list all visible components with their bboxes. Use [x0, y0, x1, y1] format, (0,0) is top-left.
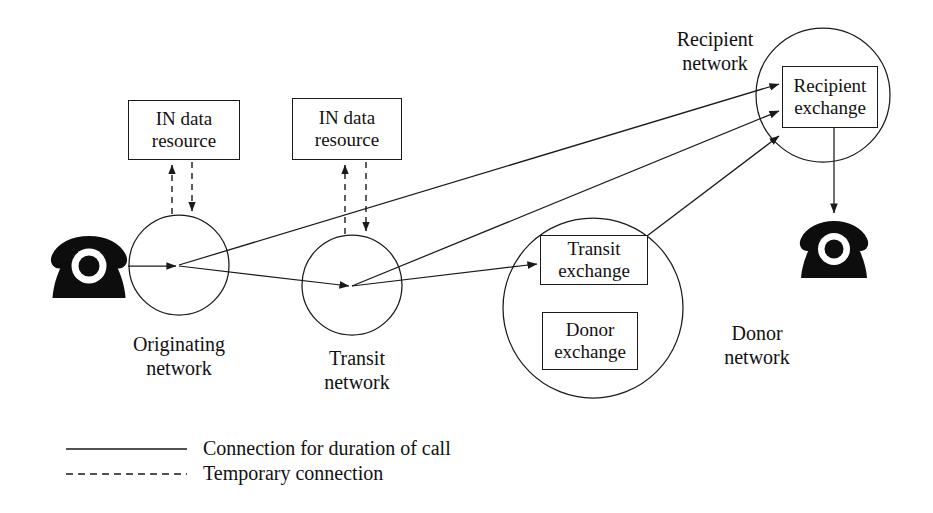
recipient-network-label: Recipient network: [645, 28, 785, 75]
in-data-resource-2-box[interactable]: IN data resource: [292, 98, 402, 160]
transit-exchange-label: Transit exchange: [558, 238, 630, 282]
transit-network-label: Transit network: [297, 347, 417, 394]
connection-originating-to-transit: [179, 266, 349, 286]
in-data-resource-1-label: IN data resource: [152, 108, 216, 152]
donor-exchange-box[interactable]: Donor exchange: [542, 312, 638, 370]
donor-exchange-label: Donor exchange: [554, 319, 626, 363]
originating-network-label: Originating network: [104, 333, 254, 380]
connection-transit-exchange-to-recipient-exchange: [647, 136, 779, 236]
donor-network-label: Donor network: [697, 322, 817, 369]
telephone-icon: [800, 221, 868, 278]
legend-item-solid-label: Connection for duration of call: [203, 437, 451, 460]
telephone-icon: [51, 236, 127, 298]
transit-network-circle: [302, 235, 402, 335]
recipient-exchange-box[interactable]: Recipient exchange: [782, 66, 878, 128]
recipient-exchange-label: Recipient exchange: [794, 75, 867, 119]
transit-exchange-box[interactable]: Transit exchange: [540, 235, 648, 285]
in-data-resource-2-label: IN data resource: [315, 107, 379, 151]
diagram-canvas: IN data resource IN data resource Transi…: [0, 0, 933, 513]
legend-item-dashed-label: Temporary connection: [203, 462, 383, 485]
in-data-resource-1-box[interactable]: IN data resource: [128, 100, 240, 160]
connection-originating-to-recipient-exchange: [179, 84, 779, 265]
